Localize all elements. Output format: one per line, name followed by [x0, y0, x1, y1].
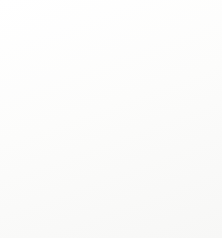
- go-board-diagram: [0, 0, 222, 238]
- stone-layer: [0, 0, 222, 238]
